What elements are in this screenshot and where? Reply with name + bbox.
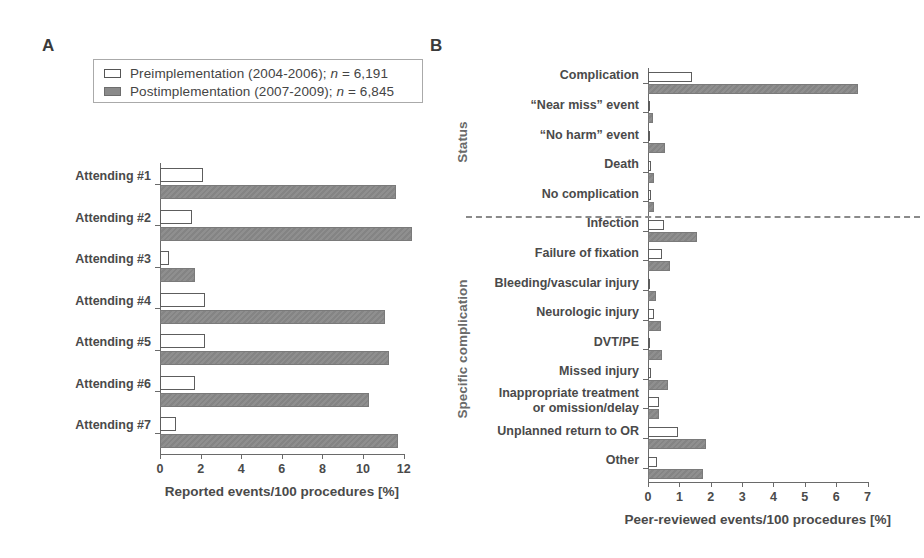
bar-postimplementation	[648, 173, 654, 183]
bar-postimplementation	[648, 261, 670, 271]
bar-preimplementation	[648, 279, 650, 289]
bar-preimplementation	[648, 72, 692, 82]
bar-preimplementation	[648, 101, 650, 111]
y-axis-category-label: “Near miss” event	[339, 98, 639, 112]
bar-preimplementation	[648, 397, 659, 407]
bar-preimplementation	[648, 190, 651, 200]
group-label-status: Status	[455, 121, 470, 162]
bar-postimplementation	[648, 232, 697, 242]
bar-preimplementation	[648, 309, 654, 319]
bar-postimplementation	[648, 321, 661, 331]
y-axis-category-label: Bleeding/vascular injury	[339, 276, 639, 290]
status-complication-divider	[466, 216, 920, 218]
bar-postimplementation	[648, 409, 659, 419]
x-axis-tick	[836, 482, 837, 487]
bar-preimplementation	[648, 131, 650, 141]
x-axis-tick	[679, 482, 680, 487]
x-axis-tick	[711, 482, 712, 487]
bar-postimplementation	[648, 202, 654, 212]
group-label-specific-complication: Specific complication	[455, 280, 470, 419]
bar-postimplementation	[648, 84, 858, 94]
x-axis-tick-label: 7	[848, 490, 888, 504]
bar-preimplementation	[648, 249, 662, 259]
y-axis-category-label: or omission/delay	[339, 401, 639, 415]
x-axis-tick	[648, 482, 649, 487]
y-axis-category-label: Inappropriate treatment	[339, 386, 639, 400]
bar-postimplementation	[648, 350, 662, 360]
bar-postimplementation	[648, 113, 653, 123]
y-axis-category-label: Other	[339, 453, 639, 467]
y-axis-category-label: Failure of fixation	[339, 246, 639, 260]
y-axis-category-label: “No harm” event	[339, 128, 639, 142]
bar-preimplementation	[648, 457, 657, 467]
bar-preimplementation	[648, 161, 651, 171]
x-axis-tick	[868, 482, 869, 487]
y-axis-category-label: Missed injury	[339, 364, 639, 378]
bar-preimplementation	[648, 427, 678, 437]
y-axis-category-label: No complication	[339, 187, 639, 201]
y-axis-category-label: Death	[339, 157, 639, 171]
y-axis-category-label: Unplanned return to OR	[339, 424, 639, 438]
bar-preimplementation	[648, 368, 651, 378]
x-axis-tick	[805, 482, 806, 487]
y-axis-category-label: DVT/PE	[339, 335, 639, 349]
y-axis-category-label: Neurologic injury	[339, 305, 639, 319]
bar-postimplementation	[648, 469, 703, 479]
x-axis-tick	[742, 482, 743, 487]
bar-postimplementation	[648, 143, 665, 153]
panel-b-chart: 01234567Complication“Near miss” event“No…	[0, 0, 924, 558]
bar-preimplementation	[648, 220, 664, 230]
x-axis-title: Peer-reviewed events/100 procedures [%]	[625, 512, 891, 527]
y-axis-category-label: Infection	[339, 216, 639, 230]
bar-postimplementation	[648, 380, 668, 390]
y-axis-category-label: Complication	[339, 68, 639, 82]
bar-preimplementation	[648, 338, 650, 348]
x-axis-tick	[773, 482, 774, 487]
bar-postimplementation	[648, 439, 706, 449]
bar-postimplementation	[648, 291, 656, 301]
